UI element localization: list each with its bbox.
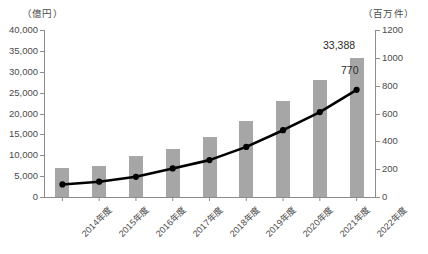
- line-marker-2015年度: [96, 179, 102, 185]
- line-data-label-2022: 770: [341, 64, 359, 76]
- line-marker-2022年度: [354, 87, 360, 93]
- line-marker-2021年度: [317, 109, 323, 115]
- line-marker-2020年度: [280, 127, 286, 133]
- line-marker-2019年度: [243, 144, 249, 150]
- chart-container: （億円） （百万件） 05,00010,00015,00020,00025,00…: [0, 0, 428, 254]
- line-path: [62, 90, 356, 185]
- line-marker-2018年度: [206, 157, 212, 163]
- line-marker-2014年度: [59, 181, 65, 187]
- line-marker-2016年度: [133, 174, 139, 180]
- bar-data-label-2022: 33,388: [323, 39, 355, 51]
- line-marker-2017年度: [170, 165, 176, 171]
